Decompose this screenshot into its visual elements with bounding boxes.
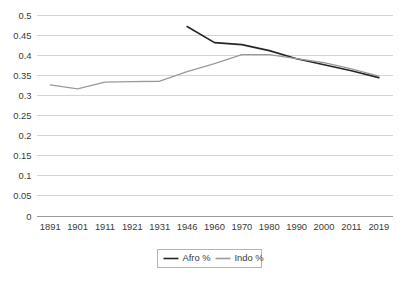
- y-tick-label: 0.25: [13, 110, 31, 121]
- y-tick-label: 0: [26, 211, 31, 222]
- y-tick-label: 0.45: [13, 30, 31, 41]
- x-tick-label: 1921: [122, 221, 143, 232]
- y-tick-label: 0.4: [18, 50, 31, 61]
- x-tick-label: 1946: [177, 221, 198, 232]
- legend-label: Indo %: [235, 252, 264, 263]
- x-tick-label: 2000: [314, 221, 335, 232]
- y-tick-label: 0.15: [13, 150, 31, 161]
- x-axis-tick-labels: 1891190119111921193119461960197019801990…: [40, 221, 389, 232]
- gridlines: [37, 16, 393, 217]
- legend-label: Afro %: [183, 252, 211, 263]
- series-line-indo: [50, 55, 379, 89]
- x-tick-label: 1911: [95, 221, 115, 232]
- y-tick-label: 0.05: [13, 190, 31, 201]
- y-tick-label: 0.5: [18, 10, 31, 21]
- line-chart: 00.050.10.150.20.250.30.350.40.450.5 189…: [0, 0, 401, 285]
- x-tick-label: 1901: [67, 221, 88, 232]
- x-tick-label: 1970: [231, 221, 252, 232]
- series-line-afro: [187, 27, 379, 78]
- chart-canvas: 00.050.10.150.20.250.30.350.40.450.5 189…: [0, 0, 401, 285]
- x-tick-label: 1931: [149, 221, 170, 232]
- x-tick-label: 1980: [259, 221, 280, 232]
- y-tick-label: 0.1: [18, 170, 31, 181]
- y-tick-label: 0.3: [18, 90, 31, 101]
- x-tick-label: 1891: [40, 221, 61, 232]
- x-tick-label: 2011: [341, 221, 361, 232]
- y-tick-label: 0.2: [18, 130, 31, 141]
- chart-legend: Afro %Indo %: [158, 250, 264, 268]
- x-tick-label: 2019: [368, 221, 389, 232]
- y-axis-tick-labels: 00.050.10.150.20.250.30.350.40.450.5: [13, 10, 31, 222]
- x-tick-label: 1960: [204, 221, 225, 232]
- y-tick-label: 0.35: [13, 70, 31, 81]
- x-tick-label: 1990: [286, 221, 307, 232]
